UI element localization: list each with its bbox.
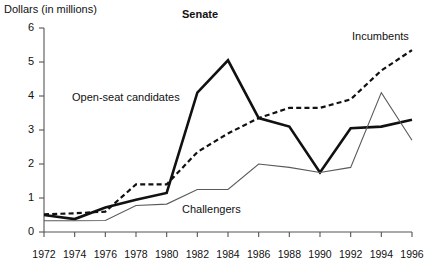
x-tick-label: 1982 (180, 248, 214, 260)
series-label-challengers: Challengers (182, 203, 241, 215)
series-label-open-seat: Open-seat candidates (72, 91, 180, 103)
x-tick-label: 1978 (119, 248, 153, 260)
x-tick-label: 1976 (88, 248, 122, 260)
series-label-incumbents: Incumbents (352, 30, 409, 42)
x-tick-label: 1996 (395, 248, 425, 260)
data-series-lines (44, 50, 412, 221)
y-tick-label: 4 (20, 89, 34, 101)
y-tick-label: 0 (20, 225, 34, 237)
x-tick-label: 1992 (334, 248, 368, 260)
x-tick-label: 1990 (303, 248, 337, 260)
y-axis-ticks (39, 28, 44, 232)
chart-figure: Dollars (in millions) Senate 0123456 197… (0, 0, 425, 270)
x-tick-label: 1974 (58, 248, 92, 260)
y-tick-label: 5 (20, 55, 34, 67)
y-tick-label: 6 (20, 21, 34, 33)
y-tick-label: 2 (20, 157, 34, 169)
y-tick-label: 1 (20, 191, 34, 203)
x-tick-label: 1988 (272, 248, 306, 260)
series-line-open-seat-candidates (44, 60, 412, 219)
series-line-challengers (44, 93, 412, 221)
x-tick-label: 1972 (27, 248, 61, 260)
x-tick-label: 1994 (364, 248, 398, 260)
x-tick-label: 1984 (211, 248, 245, 260)
x-axis-ticks (44, 232, 412, 237)
x-tick-label: 1986 (242, 248, 276, 260)
x-tick-label: 1980 (150, 248, 184, 260)
y-tick-label: 3 (20, 123, 34, 135)
